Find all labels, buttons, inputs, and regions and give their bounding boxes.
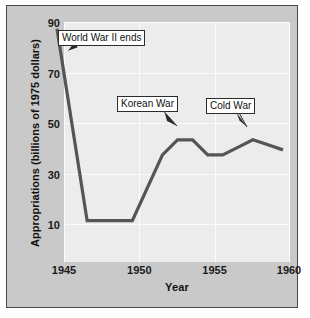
gridline-y-50 (64, 123, 290, 124)
x-tick-label: 1945 (52, 265, 76, 276)
gridline-y-70 (64, 73, 290, 74)
gridline-x-1950 (139, 22, 140, 262)
gridline-y-90 (64, 22, 290, 23)
gridline-x-1960 (289, 22, 290, 262)
gridline-x-1945 (64, 22, 65, 262)
annotation-cold-war: Cold War (206, 98, 255, 114)
chart-panel: 90 70 50 30 10 1945 1950 1955 1960 Year … (6, 5, 298, 308)
plot-area (64, 22, 290, 262)
x-axis-ticks: 1945 1950 1955 1960 (64, 265, 290, 281)
x-axis-title: Year (64, 281, 290, 293)
x-tick-label: 1955 (202, 265, 226, 276)
gridline-y-10 (64, 224, 290, 225)
annotation-korean-war: Korean War (117, 96, 178, 112)
gridline-x-1955 (215, 22, 216, 262)
chart-figure: 90 70 50 30 10 1945 1950 1955 1960 Year … (0, 0, 310, 318)
x-tick-label: 1950 (127, 265, 151, 276)
annotation-ww2: World War II ends (58, 30, 145, 46)
x-tick-label: 1960 (277, 265, 301, 276)
gridline-y-30 (64, 174, 290, 175)
y-axis-title: Appropriations (billions of 1975 dollars… (29, 18, 41, 268)
